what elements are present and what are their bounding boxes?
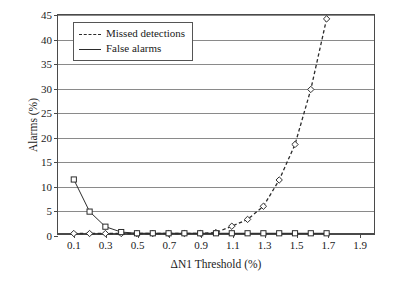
x-tick-label: 0.5 [131,240,145,251]
legend-swatch-solid-line [79,44,101,54]
legend-label: False alarms [106,43,161,54]
data-point-marker [245,231,250,236]
x-tick-label: 1.9 [353,240,367,251]
plot-area: 051015202530354045 0.10.30.50.70.91.11.3… [57,14,375,235]
x-axis-title: ΔN1 Threshold (%) [57,258,375,270]
y-tick-label: 40 [41,34,52,45]
x-tick-label: 1.7 [321,240,335,251]
y-tick-label: 35 [41,59,52,70]
data-point-marker [198,231,203,236]
x-tick-label: 1.1 [226,240,240,251]
data-point-marker [103,224,108,229]
x-tick-label: 1.3 [258,240,272,251]
data-point-marker [119,229,124,234]
x-tick-label: 0.9 [194,240,208,251]
legend-swatch-dashed-line [79,29,101,39]
data-point-marker [277,231,282,236]
y-tick-label: 20 [41,132,52,143]
data-point-marker [324,231,329,236]
y-tick-label: 5 [47,206,53,217]
data-point-marker [150,231,155,236]
x-tick-label: 0.1 [67,240,81,251]
x-tick-label: 0.3 [99,240,113,251]
legend-item-missed-detections: Missed detections [79,26,185,41]
y-tick-label: 15 [41,157,52,168]
data-point-marker [292,231,297,236]
series-false-alarms [71,177,329,236]
data-point-marker [71,230,77,236]
data-point-marker [276,177,282,183]
x-tick-label: 1.5 [290,240,304,251]
data-point-marker [166,231,171,236]
legend: Missed detections False alarms [73,22,193,61]
series-line [74,179,327,233]
data-point-marker [323,16,329,22]
y-tick-label: 10 [41,181,52,192]
data-point-marker [86,230,92,236]
chart-figure: Alarms (%) 051015202530354045 0.10.30.50… [0,0,397,282]
data-point-marker [102,230,108,236]
y-tick-label: 30 [41,83,52,94]
data-point-marker [292,141,298,147]
data-point-marker [87,209,92,214]
data-point-marker [229,231,234,236]
y-tick-label: 25 [41,108,52,119]
y-tick-label: 45 [41,10,52,21]
y-axis-title: Alarms (%) [27,98,39,152]
data-point-marker [308,231,313,236]
data-point-marker [229,223,235,229]
data-point-marker [134,231,139,236]
data-point-marker [261,231,266,236]
legend-label: Missed detections [106,28,185,39]
data-point-marker [213,231,218,236]
data-point-marker [71,177,76,182]
x-tick-label: 0.7 [162,240,176,251]
y-tick-label: 0 [47,231,53,242]
x-tick-mark [360,234,361,238]
data-point-marker [182,231,187,236]
y-tick-mark [54,236,58,237]
data-point-marker [308,86,314,92]
legend-item-false-alarms: False alarms [79,41,185,56]
